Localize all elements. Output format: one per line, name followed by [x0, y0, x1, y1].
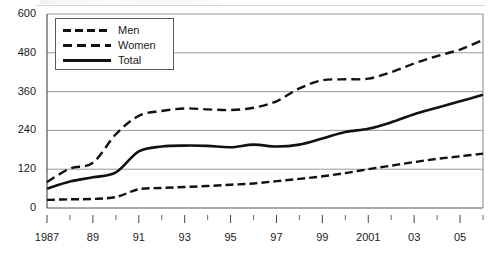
series-line-total: [47, 95, 483, 189]
legend-label-total: Total: [118, 53, 141, 67]
y-axis-tick-label: 240: [2, 124, 36, 135]
x-axis-tick-label: 1987: [35, 232, 59, 243]
x-axis-labels: 198789919395979920010305: [0, 228, 497, 248]
y-axis-tick-label: 600: [2, 8, 36, 19]
series-line-men: [47, 154, 483, 200]
y-axis-tick-label: 480: [2, 47, 36, 58]
legend-item-men: Men: [63, 23, 169, 37]
x-axis-tick-label: 89: [87, 232, 99, 243]
legend-swatch-men: [63, 29, 111, 32]
x-axis-ticks-group: [47, 215, 483, 223]
legend-swatch-women: [63, 44, 111, 47]
x-axis-tick-label: 2001: [356, 232, 380, 243]
y-axis-tick-label: 120: [2, 163, 36, 174]
x-axis-tick-label: 91: [133, 232, 145, 243]
chart-container: 0120240360480600 19878991939597992001030…: [0, 0, 497, 254]
y-axis-tick-label: 360: [2, 86, 36, 97]
legend-label-men: Men: [118, 23, 139, 37]
legend-label-women: Women: [118, 38, 156, 52]
chart-legend: Men Women Total: [55, 18, 174, 70]
y-axis-labels: 0120240360480600: [0, 0, 36, 254]
legend-swatch-total: [63, 59, 111, 62]
legend-item-total: Total: [63, 53, 169, 67]
x-axis-tick-label: 93: [179, 232, 191, 243]
x-axis-tick-label: 03: [408, 232, 420, 243]
x-axis-tick-label: 99: [316, 232, 328, 243]
x-axis-tick-label: 05: [454, 232, 466, 243]
x-axis-tick-label: 95: [224, 232, 236, 243]
x-axis-tick-label: 97: [270, 232, 282, 243]
y-axis-tick-label: 0: [2, 202, 36, 213]
legend-item-women: Women: [63, 38, 169, 52]
